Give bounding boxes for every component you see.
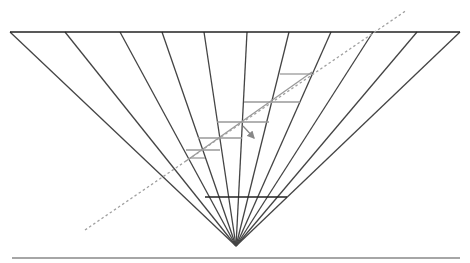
fan-line — [236, 32, 331, 246]
fan-line — [204, 32, 236, 246]
fan-line — [65, 32, 236, 246]
arrow-icon — [243, 126, 254, 138]
fan-perspective-diagram — [0, 0, 470, 263]
fan-lines — [10, 32, 460, 246]
fan-line — [236, 32, 247, 246]
fan-line — [10, 32, 236, 246]
fan-line — [162, 32, 236, 246]
fan-line — [236, 32, 373, 246]
fan-line — [236, 32, 460, 246]
